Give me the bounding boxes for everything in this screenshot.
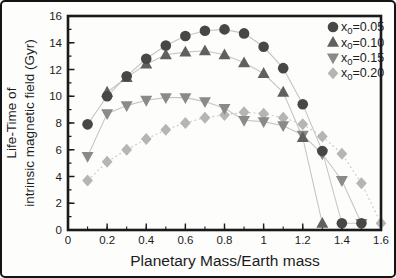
- x-axis-tick-label: 0.4: [138, 234, 155, 246]
- y-axis-tick-label: 12: [49, 64, 62, 76]
- data-point-circle: [297, 99, 308, 110]
- y-axis-tick-label: 4: [56, 171, 63, 183]
- data-point-diamond: [180, 117, 191, 129]
- y-axis-tick-label: 10: [49, 90, 62, 102]
- data-point-diamond: [317, 130, 328, 142]
- y-axis-tick-label: 14: [49, 37, 62, 49]
- data-point-circle: [258, 41, 269, 52]
- data-point-circle: [82, 119, 93, 130]
- data-point-diamond: [102, 156, 113, 168]
- data-point-triangle-up: [179, 46, 191, 57]
- data-point-circle: [121, 71, 132, 82]
- x-axis-tick-label: 0.8: [217, 234, 233, 246]
- x-axis-title: Planetary Mass/Earth mass: [130, 252, 320, 269]
- data-point-circle: [317, 146, 328, 157]
- data-point-circle: [200, 25, 211, 36]
- data-point-triangle-down: [238, 116, 250, 127]
- data-point-triangle-down: [82, 152, 94, 163]
- data-point-triangle-down: [277, 121, 289, 132]
- legend-marker-x0=0.15: [327, 53, 339, 64]
- data-point-triangle-down: [121, 101, 133, 112]
- data-point-triangle-down: [219, 104, 231, 115]
- data-point-circle: [180, 31, 191, 42]
- x-axis-tick-label: 1.4: [334, 234, 351, 246]
- x-axis-tick-label: 1.2: [295, 234, 311, 246]
- legend-marker-x0=0.20: [328, 67, 339, 79]
- legend-label-x0=0.15: x0=0.15: [341, 51, 384, 67]
- data-point-triangle-up: [316, 217, 328, 228]
- x-axis-tick-label: 0: [65, 234, 71, 246]
- data-point-diamond: [336, 148, 347, 160]
- data-point-circle: [102, 91, 113, 102]
- x-axis-tick-label: 0.6: [177, 234, 193, 246]
- legend-marker-x0=0.10: [327, 36, 339, 47]
- plot-frame: [68, 16, 381, 230]
- data-point-circle: [337, 218, 348, 229]
- data-point-circle: [239, 28, 250, 39]
- data-point-circle: [356, 218, 367, 229]
- data-point-triangle-down: [101, 109, 113, 120]
- y-axis-tick-label: 0: [56, 224, 62, 236]
- data-point-diamond: [356, 177, 367, 189]
- data-point-triangle-up: [258, 67, 270, 78]
- legend-label-x0=0.10: x0=0.10: [341, 36, 384, 52]
- data-point-circle: [141, 54, 152, 65]
- legend-label-x0=0.05: x0=0.05: [341, 20, 384, 36]
- data-point-diamond: [160, 124, 171, 136]
- data-point-triangle-down: [336, 176, 348, 187]
- y-axis-label-line2: intrinsic magnetic field (Gyr): [22, 39, 37, 206]
- data-point-triangle-up: [199, 44, 211, 55]
- y-axis-tick-label: 8: [56, 117, 62, 129]
- figure-frame: Life-Time of intrinsic magnetic field (G…: [0, 0, 396, 278]
- y-axis-tick-label: 2: [56, 197, 62, 209]
- legend-label-x0=0.20: x0=0.20: [341, 66, 384, 82]
- chart-generated-content: 00.20.40.60.811.21.41.60246810121416x0=0…: [49, 10, 389, 246]
- x-axis-tick-label: 0.2: [99, 234, 115, 246]
- y-axis-tick-label: 16: [49, 10, 62, 22]
- x-axis-tick-label: 1.6: [373, 234, 389, 246]
- data-point-diamond: [121, 144, 132, 156]
- data-point-diamond: [141, 133, 152, 145]
- data-point-triangle-up: [238, 56, 250, 67]
- y-axis-tick-label: 6: [56, 144, 62, 156]
- data-point-diamond: [200, 112, 211, 124]
- data-point-circle: [219, 24, 230, 35]
- series-line-x0=0.10: [107, 51, 322, 224]
- data-point-circle: [161, 40, 172, 51]
- y-axis-label-line1: Life-Time of: [4, 87, 19, 158]
- x-axis-tick-label: 1: [260, 234, 266, 246]
- data-point-circle: [278, 63, 289, 74]
- chart-plot: Life-Time of intrinsic magnetic field (G…: [2, 2, 394, 276]
- legend-marker-x0=0.05: [328, 22, 339, 33]
